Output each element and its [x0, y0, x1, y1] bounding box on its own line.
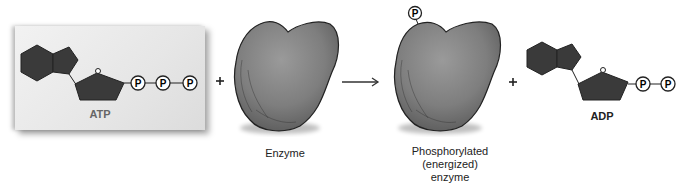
plus-icon: [509, 78, 517, 86]
svg-text:P: P: [412, 8, 419, 19]
phosphate-icon: P: [131, 76, 145, 90]
phosphate-icon: P: [409, 7, 422, 20]
phosphate-icon: P: [183, 76, 197, 90]
phosphorylated-enzyme-label: Phosphorylated (energized) enzyme: [395, 145, 505, 184]
adenine-pentagon-icon: [557, 44, 581, 70]
atp-label: ATP: [80, 108, 120, 121]
plus-icon: [216, 77, 224, 85]
svg-text:P: P: [135, 78, 142, 89]
adp-molecule: P P: [527, 42, 675, 100]
label-line: (energized): [395, 158, 505, 171]
diagram-canvas: P P P P: [0, 0, 689, 192]
label-line: enzyme: [395, 171, 505, 184]
ribose-pentagon-icon: [578, 72, 628, 100]
adenine-hexagon-icon: [21, 45, 53, 81]
adenine-pentagon-icon: [53, 47, 78, 74]
adp-label: ADP: [582, 110, 622, 123]
label-line: Phosphorylated: [395, 145, 505, 158]
phosphate-icon: P: [661, 77, 675, 91]
ribose-pentagon-icon: [75, 73, 124, 100]
phosphate-icon: P: [156, 76, 170, 90]
svg-text:P: P: [160, 78, 167, 89]
enzyme-label: Enzyme: [250, 147, 320, 160]
enzyme-icon: [235, 22, 339, 134]
adenine-hexagon-icon: [527, 42, 557, 75]
svg-text:P: P: [187, 78, 194, 89]
reaction-arrow-icon: [342, 78, 378, 86]
svg-text:P: P: [665, 79, 672, 90]
phosphorylated-enzyme-icon: P: [395, 7, 501, 135]
svg-text:P: P: [640, 79, 647, 90]
phosphate-icon: P: [636, 77, 650, 91]
atp-molecule: P P P: [21, 45, 197, 100]
